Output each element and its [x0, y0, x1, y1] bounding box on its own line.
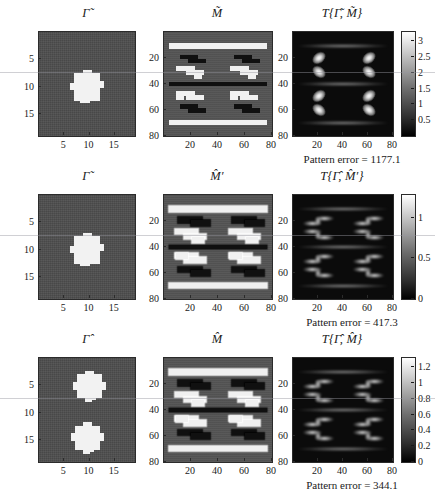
- colorbar-tick-mark-2: [411, 429, 414, 430]
- y-tick-mark-80: [292, 461, 295, 462]
- axes-t-gamma-hat-m-hat-prime: [292, 194, 394, 300]
- y-axis-labels-t-gamma-hat-m-hat-prime: 20406080: [266, 194, 288, 298]
- y-tick-label-80: 80: [278, 130, 288, 141]
- pattern-error-caption-t-gamma-hat-m-hat: Pattern error = 344.1: [272, 479, 432, 489]
- t-smear-1-1-1: [353, 267, 385, 279]
- scan-hairline-2: [0, 398, 435, 399]
- x-axis-labels-t-gamma-tilde-m-tilde: 20406080: [292, 139, 392, 152]
- axes-t-gamma-tilde-m-tilde: [292, 31, 394, 137]
- y-tick-mark-60: [292, 272, 295, 273]
- colorbar-tick-label-2: 0.4: [418, 424, 431, 435]
- colorbar-t-gamma-tilde-m-tilde: [401, 31, 416, 137]
- colorbar-tick-mark-3: [411, 414, 414, 415]
- y-tick-label-20: 20: [278, 378, 288, 389]
- colorbar-tick-mark-0: [411, 461, 414, 462]
- x-tick-label-60: 60: [362, 302, 372, 313]
- figure-row-3: Γ̂5101551015M̂2040608020406080T{Γ̂, M̂}2…: [0, 326, 435, 489]
- t-smear-c: [365, 380, 371, 388]
- y-tick-label-60: 60: [278, 267, 288, 278]
- x-tick-mark-40: [342, 458, 343, 461]
- colorbar-tick-mark-5: [411, 40, 414, 41]
- y-tick-mark-40: [292, 409, 295, 410]
- y-tick-mark-60: [292, 435, 295, 436]
- y-tick-mark-20: [292, 57, 295, 58]
- x-axis-labels-t-gamma-hat-m-hat: 20406080: [292, 465, 392, 478]
- t-streak-2: [297, 447, 390, 451]
- colorbar-tick-label-3: 0.6: [418, 408, 431, 419]
- t-smear-0-1-0: [303, 253, 335, 265]
- y-tick-label-80: 80: [278, 293, 288, 304]
- y-tick-mark-60: [292, 109, 295, 110]
- x-tick-label-20: 20: [312, 302, 322, 313]
- t-streak-2: [297, 121, 390, 125]
- colorbar-tick-label-4: 2.5: [418, 51, 431, 62]
- t-smear-0-0-0: [303, 215, 335, 227]
- colorbar-tick-mark-1: [411, 445, 414, 446]
- t-smear-c: [365, 269, 371, 277]
- t-streak-0: [297, 370, 390, 374]
- y-tick-label-20: 20: [278, 52, 288, 63]
- t-smear-c: [315, 217, 321, 225]
- t-smear-1-0-0: [353, 378, 385, 390]
- colorbar-tick-mark-1: [411, 257, 414, 258]
- colorbar-labels-t-gamma-hat-m-hat: 00.20.40.60.811.2: [418, 357, 435, 461]
- t-streak-2: [297, 284, 390, 288]
- t-streak-0: [297, 207, 390, 211]
- x-tick-mark-20: [317, 295, 318, 298]
- x-tick-mark-80: [392, 132, 393, 135]
- x-tick-label-40: 40: [337, 465, 347, 476]
- t-smear-c: [315, 418, 321, 426]
- x-tick-mark-40: [342, 132, 343, 135]
- x-tick-label-20: 20: [312, 139, 322, 150]
- scan-hairline-1: [0, 235, 435, 236]
- colorbar-tick-label-0: 0: [418, 293, 423, 304]
- y-tick-label-60: 60: [278, 430, 288, 441]
- t-smear-c: [365, 418, 371, 426]
- x-tick-label-60: 60: [362, 139, 372, 150]
- t-streak-1: [297, 408, 390, 412]
- y-tick-mark-40: [292, 83, 295, 84]
- figure-row-1: Γ̃5101551015M̃2040608020406080T{Γ̃, M̃}2…: [0, 0, 435, 163]
- colorbar-tick-mark-4: [411, 56, 414, 57]
- x-tick-mark-80: [392, 295, 393, 298]
- colorbar-tick-label-1: 0.2: [418, 440, 431, 451]
- x-tick-label-80: 80: [387, 302, 397, 313]
- x-tick-mark-80: [392, 458, 393, 461]
- t-smear-1-1-0: [353, 416, 385, 428]
- scan-hairline-0: [0, 72, 435, 73]
- y-tick-mark-20: [292, 220, 295, 221]
- y-tick-mark-40: [292, 246, 295, 247]
- t-smear-0-1-1: [303, 430, 335, 442]
- colorbar-tick-label-0: 0: [418, 456, 423, 467]
- t-smear-1-0-0: [353, 215, 385, 227]
- x-tick-mark-20: [317, 458, 318, 461]
- colorbar-tick-mark-1: [411, 103, 414, 104]
- y-tick-label-40: 40: [278, 404, 288, 415]
- panel-title-t-gamma-hat-m-hat: T{Γ̂, M̂}: [292, 332, 392, 346]
- t-smear-1-1-1: [353, 430, 385, 442]
- y-axis-labels-t-gamma-tilde-m-tilde: 20406080: [266, 31, 288, 135]
- t-smear-c: [315, 380, 321, 388]
- t-smear-0-0-0: [303, 378, 335, 390]
- x-axis-labels-t-gamma-hat-m-hat-prime: 20406080: [292, 302, 392, 315]
- panel-t-gamma-tilde-m-tilde: T{Γ̃, M̃}20406080204060800.511.522.53Pat…: [0, 0, 435, 163]
- t-smear-0-1-1: [303, 267, 335, 279]
- colorbar-tick-label-5: 3: [418, 35, 423, 46]
- x-tick-label-60: 60: [362, 465, 372, 476]
- t-smear-0-1-0: [303, 416, 335, 428]
- t-smear-c: [365, 217, 371, 225]
- x-tick-label-40: 40: [337, 139, 347, 150]
- colorbar-tick-label-1: 0.5: [418, 252, 431, 263]
- colorbar-tick-mark-2: [411, 88, 414, 89]
- colorbar-tick-label-2: 1: [418, 211, 423, 222]
- t-smear-c: [365, 432, 371, 440]
- x-tick-mark-60: [367, 295, 368, 298]
- figure-row-2: Γ̃5101551015M̂′2040608020406080T{Γ̂, M̂′…: [0, 163, 435, 326]
- panel-title-t-gamma-hat-m-hat-prime: T{Γ̂, M̂′}: [292, 169, 392, 183]
- x-tick-label-20: 20: [312, 465, 322, 476]
- x-tick-label-80: 80: [387, 139, 397, 150]
- panel-t-gamma-hat-m-hat: T{Γ̂, M̂}204060802040608000.20.40.60.811…: [0, 326, 435, 489]
- colorbar-tick-label-0: 0.5: [418, 114, 431, 125]
- colorbar-tick-label-2: 1.5: [418, 82, 431, 93]
- t-smear-c: [315, 432, 321, 440]
